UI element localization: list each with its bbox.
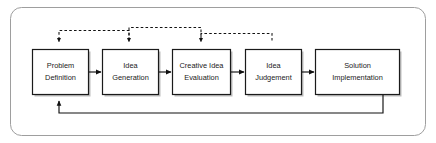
node-problem-definition-label-line2: Definition <box>45 73 76 82</box>
process-flow-diagram: Problem Definition Idea Generation Creat… <box>0 0 436 143</box>
diagram-canvas: Problem Definition Idea Generation Creat… <box>0 0 436 143</box>
node-idea-generation-label-line1: Idea <box>123 61 138 70</box>
node-idea-judgement-label-line1: Idea <box>266 61 281 70</box>
node-solution-implementation-label-line2: Implementation <box>332 73 383 82</box>
node-solution-implementation-label-line1: Solution <box>344 61 371 70</box>
node-idea-generation-label-line2: Generation <box>112 73 149 82</box>
node-problem-definition-label-line1: Problem <box>47 61 75 70</box>
node-problem-definition[interactable]: Problem Definition <box>33 50 89 95</box>
node-creative-idea-evaluation-label-line2: Evaluation <box>184 73 219 82</box>
node-idea-judgement-label-line2: Judgement <box>255 73 292 82</box>
node-creative-idea-evaluation-label-line1: Creative Idea <box>180 61 225 70</box>
node-idea-judgement[interactable]: Idea Judgement <box>246 50 302 95</box>
node-creative-idea-evaluation[interactable]: Creative Idea Evaluation <box>173 50 231 95</box>
node-solution-implementation[interactable]: Solution Implementation <box>316 50 400 95</box>
node-idea-generation[interactable]: Idea Generation <box>103 50 159 95</box>
